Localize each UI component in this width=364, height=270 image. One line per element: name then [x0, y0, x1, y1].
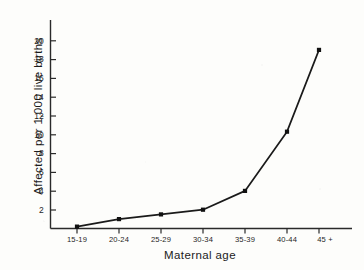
data-point-35-39: [243, 189, 247, 193]
data-point-30-34: [201, 208, 205, 212]
data-point-markers: [75, 48, 321, 229]
data-point-40-44: [285, 130, 289, 134]
data-point-45 +: [317, 48, 321, 52]
line-chart-plot: [0, 0, 364, 270]
y-axis-ticks: [51, 41, 57, 210]
chart-figure: 20 18 16 14 12 10 8 6 4 2 15-19 20-24 25…: [0, 0, 364, 270]
data-point-25-29: [159, 212, 163, 216]
y-axis-title: Affected per 1,000 live births: [32, 16, 44, 216]
data-series-line: [77, 50, 319, 227]
x-axis-ticks: [77, 229, 319, 234]
data-point-15-19: [75, 225, 79, 229]
x-axis-title: Maternal age: [50, 249, 350, 261]
data-point-20-24: [117, 217, 121, 221]
x-tick-label-45-plus: 45 +: [300, 235, 350, 244]
